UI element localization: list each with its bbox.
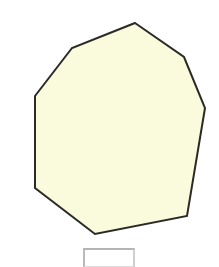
answer-box-container[interactable] xyxy=(83,248,135,267)
octagon-figure-svg xyxy=(0,0,219,267)
octagon-shape xyxy=(35,23,205,234)
figure-canvas xyxy=(0,0,219,267)
answer-input-box[interactable] xyxy=(83,248,135,267)
